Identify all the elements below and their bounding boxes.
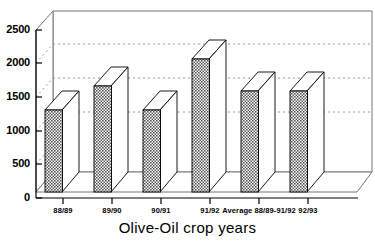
x-tick-label-92-93: 92/93 bbox=[285, 206, 331, 215]
y-tick-label: 2000 bbox=[0, 56, 30, 68]
y-tick-label: 1000 bbox=[0, 124, 30, 136]
bar-91-92 bbox=[192, 40, 226, 192]
bar-89-90 bbox=[94, 67, 128, 192]
bar-88-89 bbox=[45, 91, 79, 192]
bar-92-93 bbox=[290, 72, 324, 192]
x-axis bbox=[36, 198, 358, 204]
x-axis-title: Olive-Oil crop years bbox=[0, 219, 375, 236]
y-tick-label: 500 bbox=[0, 157, 30, 169]
y-tick-label: 0 bbox=[0, 191, 30, 203]
bar-average-88-89-91-92 bbox=[241, 72, 275, 192]
x-tick-label-88-89: 88/89 bbox=[40, 206, 86, 215]
x-tick-label-89-90: 89/90 bbox=[89, 206, 135, 215]
bar-90-91 bbox=[143, 91, 177, 192]
chart-container: 2500 2000 1500 1000 500 0 88/89 89/90 90… bbox=[0, 0, 375, 244]
y-tick-label: 2500 bbox=[0, 23, 30, 35]
x-tick-label-90-91: 90/91 bbox=[138, 206, 184, 215]
y-tick-label: 1500 bbox=[0, 90, 30, 102]
